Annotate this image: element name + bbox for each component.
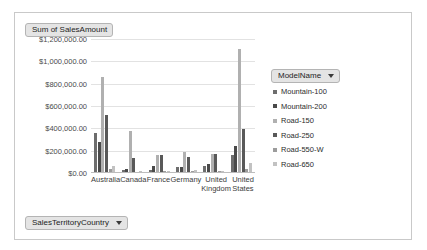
- legend-field-button[interactable]: ModelName: [271, 69, 340, 83]
- bar-group: [200, 39, 227, 173]
- x-axis-label: United Kingdom: [201, 175, 231, 194]
- legend-item-label: Mountain-200: [281, 102, 327, 111]
- chevron-down-icon: [328, 74, 334, 78]
- bar[interactable]: [242, 129, 245, 173]
- y-axis-tick-label: $400,000.00: [45, 124, 87, 133]
- bar-group: [118, 39, 145, 173]
- legend-swatch-icon: [273, 119, 277, 123]
- legend-swatch-icon: [273, 104, 277, 108]
- bar-group: [228, 39, 255, 173]
- y-axis-tick-label: $0.00: [68, 169, 87, 178]
- legend-swatch-icon: [273, 162, 277, 166]
- y-axis-tick-label: $1,000,000.00: [39, 57, 87, 66]
- legend-item-label: Road-150: [281, 116, 314, 125]
- bar-series-container: [91, 39, 255, 173]
- legend-item[interactable]: Road-150: [273, 116, 327, 125]
- x-axis-label: Germany: [171, 175, 202, 194]
- bar[interactable]: [211, 154, 214, 173]
- bar[interactable]: [160, 155, 163, 173]
- y-axis-tick-label: $600,000.00: [45, 102, 87, 111]
- bar[interactable]: [214, 154, 217, 173]
- chevron-down-icon: [116, 221, 122, 225]
- bar[interactable]: [129, 131, 132, 173]
- bar[interactable]: [187, 157, 190, 173]
- legend-item[interactable]: Mountain-200: [273, 102, 327, 111]
- bar[interactable]: [231, 155, 234, 173]
- bar-group: [173, 39, 200, 173]
- bar[interactable]: [94, 133, 97, 173]
- value-field-label: Sum of SalesAmount: [32, 26, 107, 34]
- x-axis-labels: AustraliaCanadaFranceGermanyUnited Kingd…: [91, 175, 255, 194]
- bar[interactable]: [156, 155, 159, 173]
- bar[interactable]: [101, 77, 104, 173]
- legend-field-label: ModelName: [278, 72, 321, 80]
- legend-swatch-icon: [273, 133, 277, 137]
- category-field-label: SalesTerritoryCountry: [32, 219, 109, 227]
- legend-item[interactable]: Road-550-W: [273, 145, 327, 154]
- bar[interactable]: [238, 49, 241, 173]
- legend-swatch-icon: [273, 90, 277, 94]
- legend-item-label: Road-650: [281, 160, 314, 169]
- pivot-chart-frame: Sum of SalesAmount SalesTerritoryCountry…: [14, 12, 412, 240]
- plot-area: [91, 39, 255, 173]
- chart-legend: Mountain-100Mountain-200Road-150Road-250…: [273, 87, 327, 169]
- y-axis-tick-label: $200,000.00: [45, 146, 87, 155]
- bar[interactable]: [105, 115, 108, 173]
- legend-swatch-icon: [273, 148, 277, 152]
- y-axis-tick-label: $1,200,000.00: [39, 35, 87, 44]
- x-axis-label: Australia: [91, 175, 120, 194]
- x-axis-label: United States: [231, 175, 255, 194]
- legend-item-label: Mountain-100: [281, 87, 327, 96]
- bar[interactable]: [98, 142, 101, 173]
- bar-group: [146, 39, 173, 173]
- x-axis-label: France: [146, 175, 170, 194]
- bar[interactable]: [183, 152, 186, 173]
- bar[interactable]: [234, 146, 237, 173]
- legend-item-label: Road-250: [281, 131, 314, 140]
- category-field-button[interactable]: SalesTerritoryCountry: [25, 216, 128, 230]
- y-axis-tick-label: $800,000.00: [45, 79, 87, 88]
- legend-item-label: Road-550-W: [281, 145, 324, 154]
- x-axis-line: [91, 172, 255, 173]
- x-axis-label: Canada: [120, 175, 146, 194]
- legend-item[interactable]: Road-650: [273, 160, 327, 169]
- y-axis-ticks: $1,200,000.00$1,000,000.00$800,000.00$60…: [15, 39, 87, 173]
- legend-item[interactable]: Road-250: [273, 131, 327, 140]
- legend-item[interactable]: Mountain-100: [273, 87, 327, 96]
- bar[interactable]: [132, 158, 135, 173]
- bar-group: [91, 39, 118, 173]
